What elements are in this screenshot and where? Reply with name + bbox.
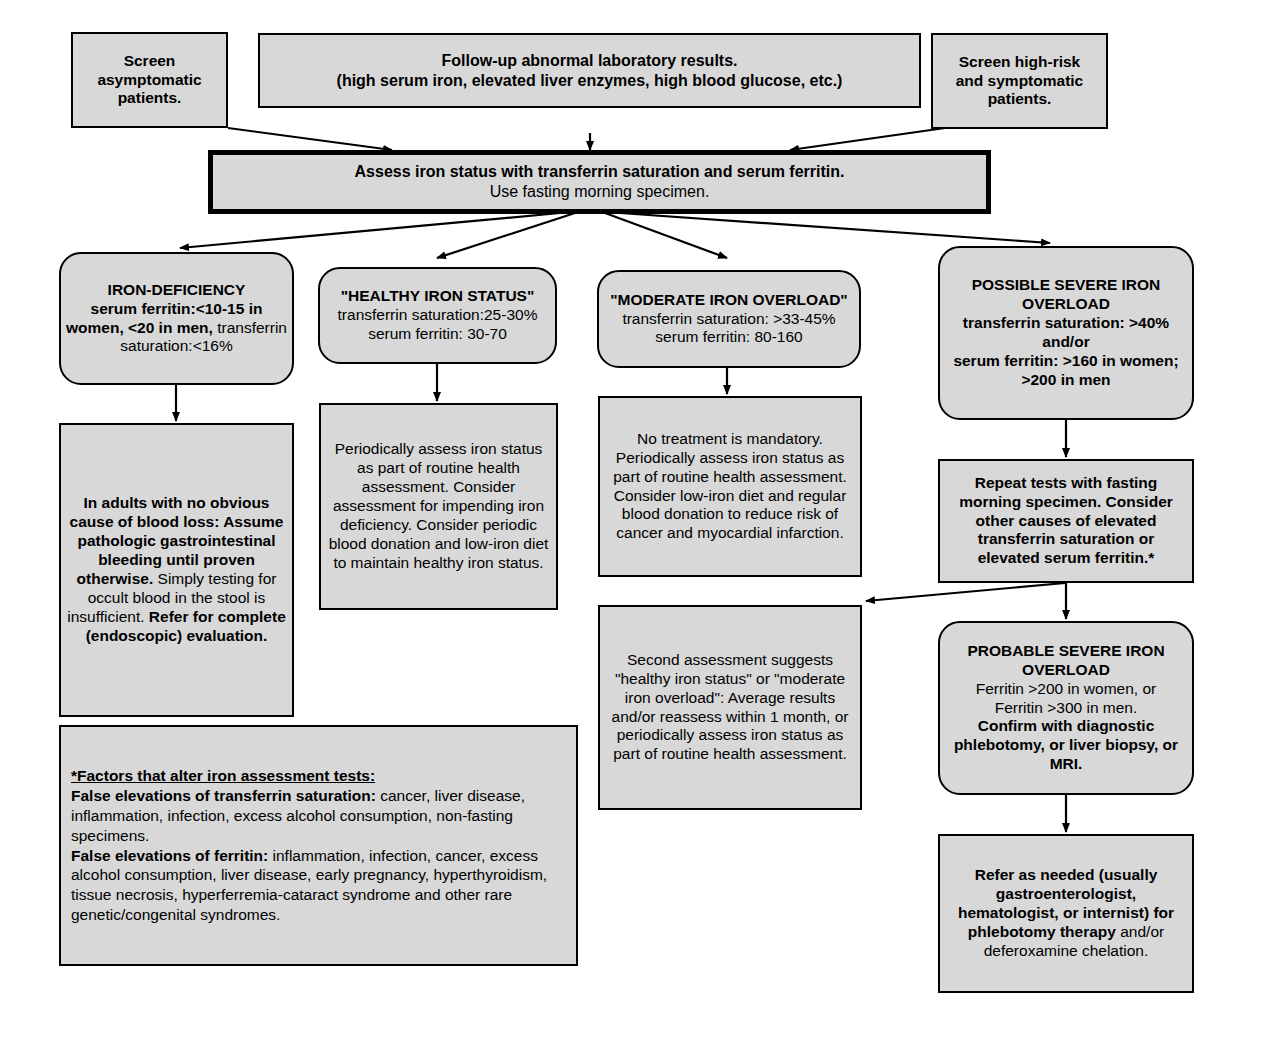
node-repeat-tests[interactable]: Repeat tests with fasting morning specim… — [938, 459, 1194, 583]
moderate-heading: "MODERATE IRON OVERLOAD" — [610, 291, 847, 308]
probable-line-3: Ferritin >300 in men. — [995, 699, 1138, 716]
edge-assess-to-possible-severe — [620, 213, 1050, 243]
healthy-line-3: serum ferritin: 30-70 — [368, 325, 507, 342]
healthy-heading: "HEALTHY IRON STATUS" — [341, 287, 535, 304]
iron-deficiency-heading: IRON-DEFICIENCY — [108, 281, 246, 298]
node-second-assessment[interactable]: Second assessment suggests "healthy iron… — [598, 605, 862, 810]
edge-asymptomatic-to-assess — [228, 128, 392, 150]
edge-assess-to-iron-deficiency — [180, 213, 560, 248]
edge-assess-to-moderate — [605, 213, 727, 258]
probable-line-2: Ferritin >200 in women, or — [976, 680, 1156, 697]
healthy-line-2: transferrin saturation:25-30% — [338, 306, 538, 323]
node-footnote[interactable]: *Factors that alter iron assessment test… — [59, 725, 578, 966]
node-iron-deficiency-action[interactable]: In adults with no obvious cause of blood… — [59, 423, 294, 717]
moderate-line-2: transferrin saturation: >33-45% — [622, 310, 835, 327]
node-moderate-iron-overload[interactable]: "MODERATE IRON OVERLOAD" transferrin sat… — [597, 270, 861, 368]
node-followup-abnormal[interactable]: Follow-up abnormal laboratory results. (… — [258, 33, 921, 108]
probable-bold-tail: Confirm with diagnostic phlebotomy, or l… — [954, 717, 1178, 772]
possible-line-2: transferrin saturation: >40% — [963, 314, 1169, 331]
node-healthy-iron-status[interactable]: "HEALTHY IRON STATUS" transferrin satura… — [318, 267, 557, 364]
screen-asymptomatic-label: Screen asymptomatic patients. — [97, 52, 201, 107]
edge-highrisk-to-assess — [790, 128, 945, 150]
node-iron-deficiency[interactable]: IRON-DEFICIENCY serum ferritin:<10-15 in… — [59, 252, 294, 385]
possible-line-3: and/or — [1042, 333, 1089, 350]
second-assessment-text: Second assessment suggests "healthy iron… — [612, 651, 849, 763]
node-refer-as-needed[interactable]: Refer as needed (usually gastroenterolog… — [938, 834, 1194, 993]
node-possible-severe-overload[interactable]: POSSIBLE SEVERE IRON OVERLOAD transferri… — [938, 246, 1194, 420]
footnote-sub2-bold: False elevations of ferritin: — [71, 847, 268, 864]
node-screen-high-risk[interactable]: Screen high-risk and symptomatic patient… — [931, 33, 1108, 129]
followup-line-2: (high serum iron, elevated liver enzymes… — [337, 72, 843, 89]
moderate-line-3: serum ferritin: 80-160 — [655, 328, 802, 345]
followup-line-1: Follow-up abnormal laboratory results. — [441, 52, 737, 69]
node-assess-iron-status[interactable]: Assess iron status with transferrin satu… — [208, 150, 991, 214]
edge-assess-to-healthy — [437, 213, 575, 258]
footnote-heading: *Factors that alter iron assessment test… — [71, 767, 375, 784]
possible-line-4: serum ferritin: >160 in women; >200 in m… — [953, 352, 1178, 388]
screen-high-risk-label: Screen high-risk and symptomatic patient… — [956, 53, 1083, 108]
node-healthy-action[interactable]: Periodically assess iron status as part … — [319, 403, 558, 610]
flowchart-canvas: Screen asymptomatic patients. Follow-up … — [0, 0, 1279, 1037]
edge-repeat-to-second-assessment — [866, 583, 1065, 601]
moderate-action-text: No treatment is mandatory. Periodically … — [613, 430, 847, 542]
node-probable-severe-overload[interactable]: PROBABLE SEVERE IRON OVERLOAD Ferritin >… — [938, 621, 1194, 795]
possible-heading: POSSIBLE SEVERE IRON OVERLOAD — [972, 276, 1161, 312]
node-screen-asymptomatic[interactable]: Screen asymptomatic patients. — [71, 32, 228, 128]
probable-heading: PROBABLE SEVERE IRON OVERLOAD — [967, 642, 1164, 678]
healthy-action-text: Periodically assess iron status as part … — [329, 440, 549, 570]
node-moderate-action[interactable]: No treatment is mandatory. Periodically … — [598, 396, 862, 577]
footnote-sub1-bold: False elevations of transferrin saturati… — [71, 787, 376, 804]
repeat-tests-text: Repeat tests with fasting morning specim… — [959, 474, 1173, 567]
assess-line-1: Assess iron status with transferrin satu… — [355, 163, 845, 180]
assess-line-2: Use fasting morning specimen. — [490, 183, 710, 200]
